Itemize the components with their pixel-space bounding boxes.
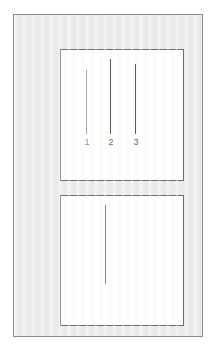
vertical-mark-3 xyxy=(135,64,136,134)
outer-frame: 1 2 3 xyxy=(13,14,203,337)
lower-panel xyxy=(60,195,184,326)
mark-label-2: 2 xyxy=(105,138,117,147)
upper-panel xyxy=(60,49,184,181)
vertical-mark-lower xyxy=(105,205,106,284)
mark-label-1: 1 xyxy=(81,138,93,147)
vertical-mark-2 xyxy=(110,59,111,134)
vertical-mark-1 xyxy=(86,70,87,134)
figure-root: 1 2 3 xyxy=(0,0,215,351)
mark-label-3: 3 xyxy=(130,138,142,147)
